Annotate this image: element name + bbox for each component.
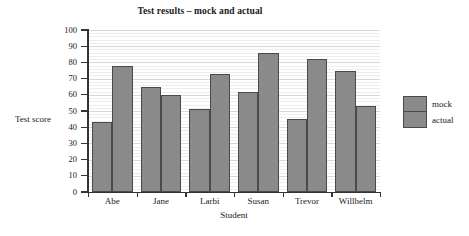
x-axis-label-abe: Abe bbox=[88, 196, 137, 207]
y-axis-tick-label: 90 bbox=[53, 42, 77, 51]
plot-area bbox=[88, 30, 380, 192]
bar-willhelm-mock bbox=[335, 71, 355, 193]
bar-trevor-mock bbox=[287, 119, 307, 192]
y-axis-tick-label: 0 bbox=[53, 188, 77, 197]
bar-susan-mock bbox=[238, 92, 258, 192]
legend-label-mock: mock bbox=[432, 98, 452, 110]
bar-larbi-mock bbox=[189, 109, 209, 192]
y-axis-tick bbox=[81, 29, 87, 30]
y-axis-tick bbox=[81, 62, 87, 63]
y-axis-tick bbox=[81, 110, 87, 111]
y-axis-tick-label: 80 bbox=[53, 58, 77, 67]
legend-item-mock[interactable]: mock bbox=[403, 96, 467, 112]
x-axis-title: Student bbox=[88, 210, 380, 220]
legend-swatch-actual bbox=[403, 112, 427, 128]
x-axis-label-trevor: Trevor bbox=[283, 196, 332, 207]
x-axis-label-jane: Jane bbox=[137, 196, 186, 207]
y-axis-tick bbox=[81, 175, 87, 176]
y-axis-tick-label: 70 bbox=[53, 74, 77, 83]
bar-larbi-actual bbox=[210, 74, 230, 192]
y-axis-tick bbox=[81, 78, 87, 79]
x-axis-label-larbi: Larbi bbox=[185, 196, 234, 207]
y-axis-tick-label: 60 bbox=[53, 90, 77, 99]
bar-trevor-actual bbox=[307, 59, 327, 192]
y-axis-tick bbox=[81, 46, 87, 47]
y-axis-tick-label: 100 bbox=[53, 26, 77, 35]
legend: mockactual bbox=[403, 96, 467, 134]
y-axis-tick bbox=[81, 127, 87, 128]
y-axis-line bbox=[87, 29, 89, 193]
x-axis-label-susan: Susan bbox=[234, 196, 283, 207]
y-axis-tick-label: 20 bbox=[53, 155, 77, 164]
bar-abe-actual bbox=[112, 66, 132, 192]
x-axis-label-willhelm: Willhelm bbox=[331, 196, 380, 207]
x-axis-tick bbox=[380, 192, 381, 197]
y-axis-tick bbox=[81, 191, 87, 192]
y-axis-tick bbox=[81, 94, 87, 95]
bar-susan-actual bbox=[258, 53, 278, 192]
bar-abe-mock bbox=[92, 122, 112, 192]
legend-label-actual: actual bbox=[432, 114, 454, 126]
y-axis-tick bbox=[81, 159, 87, 160]
bar-chart: Test results – mock and actual 010203040… bbox=[0, 0, 469, 236]
bar-willhelm-actual bbox=[356, 106, 376, 192]
legend-swatch-mock bbox=[403, 96, 427, 112]
legend-item-actual[interactable]: actual bbox=[403, 112, 467, 128]
y-axis-tick-label: 30 bbox=[53, 139, 77, 148]
y-axis-tick bbox=[81, 143, 87, 144]
y-axis-title: Test score bbox=[2, 114, 64, 124]
bar-jane-actual bbox=[161, 95, 181, 192]
y-axis-tick-label: 10 bbox=[53, 171, 77, 180]
bar-jane-mock bbox=[141, 87, 161, 192]
